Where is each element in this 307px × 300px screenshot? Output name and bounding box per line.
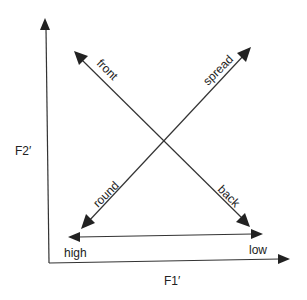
label-low: low [249,243,267,257]
high-low-arrow [68,229,263,242]
y-axis [40,18,50,263]
back-arrowhead-icon [236,213,250,227]
x-axis-arrowhead-icon [278,254,290,264]
right-arrowhead-icon [251,229,263,239]
x-axis-label: F1′ [164,274,181,288]
y-axis-label: F2′ [15,144,32,158]
front-arrowhead-icon [74,51,88,65]
vowel-feature-diagram: front back spread round high low F2′ F1′ [0,0,307,300]
label-front: front [94,56,121,83]
left-arrowhead-icon [68,232,80,242]
y-axis-arrowhead-icon [40,18,50,30]
label-high: high [64,246,87,260]
label-round: round [90,179,122,211]
label-back: back [215,182,244,211]
